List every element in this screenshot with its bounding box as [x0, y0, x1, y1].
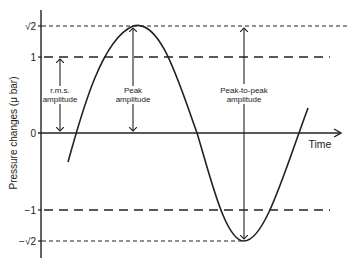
peak-to-peak-label-line1: Peak-to-peak [220, 86, 269, 95]
peak-to-peak-label-line2: amplitude [227, 95, 262, 104]
y-axis-label: Pressure changes (μ bar) [8, 76, 19, 189]
rms-label-line2: amplitude [43, 95, 78, 104]
peak-label-line1: Peak [124, 86, 143, 95]
tick-sqrt2: √2 [25, 21, 36, 32]
tick-minus-one: −1 [25, 205, 37, 216]
tick-one: 1 [30, 52, 36, 63]
rms-label-line1: r.m.s. [50, 86, 70, 95]
peak-label-line2: amplitude [116, 95, 151, 104]
tick-minus-sqrt2: −√2 [19, 236, 36, 247]
tick-zero: 0 [30, 128, 36, 139]
amplitude-diagram: √2 1 0 −1 −√2 Pressure changes (μ bar) T… [0, 0, 348, 264]
x-axis-label: Time [309, 138, 332, 150]
